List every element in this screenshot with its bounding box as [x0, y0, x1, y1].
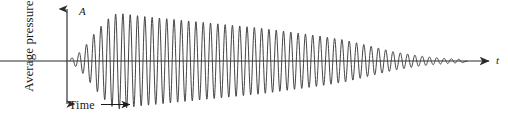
horizontal-axis-title: Time [69, 98, 95, 113]
amplitude-axis-label: A [79, 6, 86, 17]
waveform-figure: A t Average pressure Time [0, 0, 508, 118]
vertical-axis-title: Average pressure [21, 0, 37, 98]
time-axis-label: t [496, 55, 499, 66]
